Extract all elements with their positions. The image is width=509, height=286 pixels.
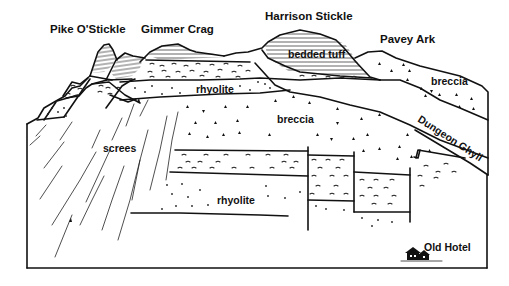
label-pavey-ark: Pavey Ark <box>380 33 436 45</box>
screes-lines <box>30 98 178 257</box>
fault-blocks <box>131 147 465 230</box>
label-pike-o-stickle: Pike O'Stickle <box>50 23 126 35</box>
label-screes: screes <box>103 142 136 154</box>
label-rhyolite-upper: rhyolite <box>196 83 234 95</box>
label-gimmer-crag: Gimmer Crag <box>141 23 214 35</box>
label-harrison-stickle: Harrison Stickle <box>265 10 353 22</box>
pike-o-stickle-peak <box>90 44 145 80</box>
label-rhyolite-lower: rhyolite <box>217 194 255 206</box>
lower-rhyolite-dots <box>161 183 393 227</box>
label-breccia-center: breccia <box>277 113 314 125</box>
frame <box>27 124 487 268</box>
label-breccia-right: breccia <box>431 75 468 87</box>
label-old-hotel: Old Hotel <box>424 241 471 253</box>
label-bedded-tuff: bedded tuff <box>288 48 346 60</box>
geological-cross-section: Pike O'Stickle Gimmer Crag Harrison Stic… <box>0 0 509 286</box>
